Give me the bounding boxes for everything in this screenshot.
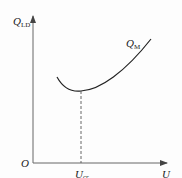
diagram-canvas: QLD QM O Ucr U xyxy=(0,0,182,178)
y-axis-label: QLD xyxy=(13,15,30,29)
plot-svg: QLD QM O Ucr U xyxy=(0,0,182,178)
x-axis-label: U xyxy=(162,168,171,178)
critical-value-label: Ucr xyxy=(75,168,89,178)
origin-label: O xyxy=(21,157,29,169)
curve-label: QM xyxy=(126,37,141,51)
